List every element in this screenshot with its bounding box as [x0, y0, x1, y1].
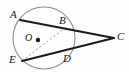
vertex-label-c: C — [117, 31, 124, 42]
secant-line-ABC — [20, 20, 114, 38]
vertex-label-a: A — [10, 9, 17, 20]
vertex-label-d: D — [63, 53, 71, 64]
vertex-label-b: B — [59, 15, 66, 26]
center-label-o: O — [25, 33, 32, 43]
geometry-figure: A B C D E O — [0, 0, 129, 72]
center-point-dot — [36, 38, 40, 42]
vertex-label-e: E — [9, 54, 16, 65]
